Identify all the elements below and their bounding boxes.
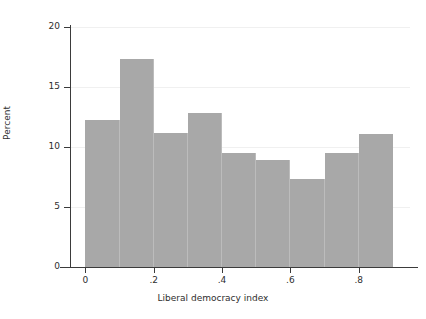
x-axis-title: Liberal democracy index xyxy=(0,293,426,303)
y-axis-tick-label: 10 xyxy=(20,142,60,151)
x-axis-tick-label: .2 xyxy=(134,276,174,285)
x-axis-tick xyxy=(290,268,291,273)
histogram-chart: Percent Liberal democracy index 05101520… xyxy=(0,0,426,319)
histogram-bar xyxy=(120,59,154,267)
x-axis-line xyxy=(60,267,418,268)
y-axis-tick-label: 20 xyxy=(20,22,60,31)
x-axis-tick-label: .8 xyxy=(339,276,379,285)
histogram-bar xyxy=(154,133,188,267)
histogram-bar xyxy=(85,120,119,267)
plot-area xyxy=(70,27,410,267)
x-axis-tick xyxy=(154,268,155,273)
x-axis-tick xyxy=(85,268,86,273)
y-axis-tick xyxy=(64,207,70,208)
x-axis-tick xyxy=(222,268,223,273)
x-axis-tick-label: .4 xyxy=(202,276,242,285)
histogram-bar xyxy=(325,153,359,267)
x-axis-tick-label: 0 xyxy=(65,276,105,285)
x-axis-tick-label: .6 xyxy=(270,276,310,285)
y-axis-tick-label: 0 xyxy=(20,262,60,271)
y-axis-tick xyxy=(64,87,70,88)
y-axis-line xyxy=(70,25,71,268)
gridline xyxy=(70,27,410,28)
y-axis-title: Percent xyxy=(2,78,12,168)
y-axis-tick xyxy=(64,267,70,268)
histogram-bar xyxy=(256,160,290,267)
histogram-bar xyxy=(222,153,256,267)
histogram-bar xyxy=(290,179,324,267)
y-axis-tick xyxy=(64,147,70,148)
y-axis-tick xyxy=(64,27,70,28)
histogram-bar xyxy=(188,113,222,267)
y-axis-tick-label: 15 xyxy=(20,82,60,91)
histogram-bar xyxy=(359,134,393,267)
y-axis-tick-label: 5 xyxy=(20,202,60,211)
x-axis-tick xyxy=(359,268,360,273)
